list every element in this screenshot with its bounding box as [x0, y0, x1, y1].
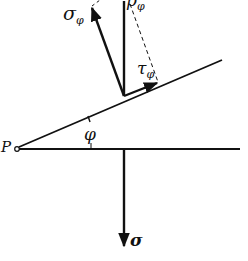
tau-phi-subscript: φ — [146, 68, 154, 81]
dashed-top-connector — [92, 0, 100, 6]
angle-phi-label: φ — [84, 126, 96, 143]
sigma-phi-label: σφ — [63, 4, 84, 23]
sigma-label: σ — [130, 232, 143, 249]
tau-phi-symbol: τ — [137, 58, 146, 78]
sigma-phi-arrow — [92, 8, 124, 96]
sigma-phi-symbol: σ — [63, 2, 76, 24]
diagram-graphics — [0, 0, 248, 261]
point-p-marker — [15, 147, 20, 152]
p-phi-label: pφ — [126, 0, 145, 9]
p-phi-subscript: φ — [137, 0, 145, 13]
sigma-phi-subscript: φ — [76, 14, 84, 27]
point-p-label: P — [1, 140, 11, 155]
stress-diagram: σφ pφ τφ P φ σ — [0, 0, 248, 261]
inclined-section-line — [19, 60, 222, 147]
p-phi-symbol: p — [126, 0, 137, 10]
tau-phi-label: τφ — [137, 60, 154, 77]
